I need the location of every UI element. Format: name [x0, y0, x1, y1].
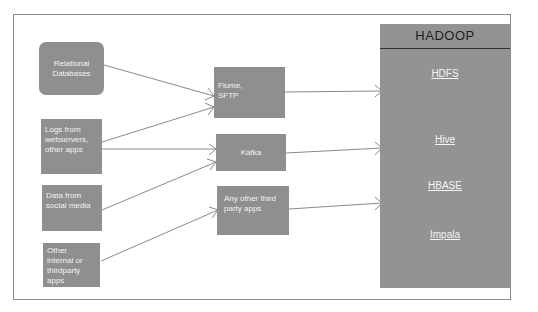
- source-label: Data from: [46, 191, 98, 201]
- ingestion-label: Flume,: [218, 81, 242, 91]
- ingestion-label: Kafka: [241, 148, 261, 158]
- ingestion-label: party apps: [224, 204, 261, 214]
- hadoop-title: HADOOP: [380, 24, 510, 49]
- ingestion-flume-sftp: Flume, SFTP: [214, 67, 285, 118]
- ingestion-label: SFTP: [218, 91, 238, 101]
- source-label: Other: [47, 246, 96, 256]
- source-label: other apps: [45, 145, 98, 155]
- component-impala[interactable]: Impala: [380, 229, 510, 240]
- component-hbase[interactable]: HBASE: [380, 180, 510, 191]
- source-other-apps: Other internal or thirdparty apps: [43, 243, 100, 287]
- ingestion-label: Any other third: [224, 194, 276, 204]
- source-label: thirdparty: [47, 266, 96, 276]
- ingestion-third-party-apps: Any other third party apps: [217, 186, 289, 235]
- source-label: internal or: [47, 256, 96, 266]
- source-label: Databases: [52, 69, 90, 79]
- source-label: apps: [47, 276, 96, 286]
- ingestion-kafka: Kafka: [216, 134, 286, 171]
- source-label: social media: [46, 201, 98, 211]
- component-hive[interactable]: Hive: [380, 134, 510, 145]
- source-label: Logs from: [45, 125, 98, 135]
- source-relational-databases: Relational Databases: [39, 42, 104, 95]
- source-label: webservers,: [45, 135, 98, 145]
- source-label: Relational: [54, 59, 90, 69]
- source-logs: Logs from webservers, other apps: [41, 119, 102, 174]
- source-social-media: Data from social media: [42, 185, 102, 231]
- component-hdfs[interactable]: HDFS: [380, 68, 510, 79]
- hadoop-container: HADOOP HDFS Hive HBASE Impala: [380, 24, 510, 288]
